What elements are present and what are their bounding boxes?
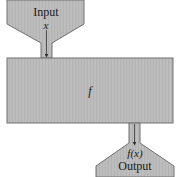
- input-label: Input: [33, 5, 59, 19]
- output-label: Output: [118, 159, 152, 173]
- function-machine-diagram: Input x f f(x) Output: [0, 0, 177, 177]
- input-variable: x: [43, 19, 49, 31]
